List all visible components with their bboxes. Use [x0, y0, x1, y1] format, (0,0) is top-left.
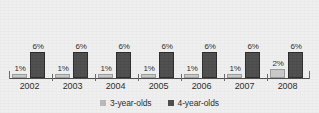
legend-swatch-icon — [168, 100, 174, 106]
bar-4-year-olds-2005[interactable] — [159, 52, 174, 78]
bar-group: 1%6% — [95, 44, 136, 78]
bar-4-year-olds-2006[interactable] — [202, 52, 217, 78]
bar-4-year-olds-2008[interactable] — [288, 52, 303, 78]
bar-value-label: 6% — [241, 42, 265, 51]
x-axis-tick — [138, 74, 139, 81]
bar-chart-figure: 1%6%1%6%1%6%1%6%1%6%1%6%2%6% 20022003200… — [0, 0, 319, 113]
bar-value-label: 6% — [112, 42, 136, 51]
x-axis-tick — [267, 74, 268, 81]
bar-4-year-olds-2002[interactable] — [30, 52, 45, 78]
bar-value-label: 1% — [51, 64, 75, 73]
x-axis-tick — [181, 74, 182, 81]
x-axis-line — [9, 78, 310, 79]
legend-swatch-icon — [100, 100, 106, 106]
bar-group: 1%6% — [52, 44, 93, 78]
bar-4-year-olds-2007[interactable] — [245, 52, 260, 78]
bar-value-label: 6% — [198, 42, 222, 51]
x-axis-tick-labels: 2002200320042005200620072008 — [9, 80, 310, 92]
bar-value-label: 1% — [223, 64, 247, 73]
x-axis-tick — [224, 74, 225, 81]
bar-value-label: 2% — [266, 59, 290, 68]
bar-group: 1%6% — [224, 44, 265, 78]
bar-group: 2%6% — [267, 44, 308, 78]
bar-group: 1%6% — [9, 44, 50, 78]
x-axis-right-cap — [309, 71, 310, 79]
bar-value-label: 6% — [69, 42, 93, 51]
bar-value-label: 6% — [155, 42, 179, 51]
legend-label: 3-year-olds — [110, 98, 151, 108]
bar-group: 1%6% — [138, 44, 179, 78]
plot-area: 1%6%1%6%1%6%1%6%1%6%1%6%2%6% — [9, 44, 310, 78]
legend-label: 4-year-olds — [178, 98, 219, 108]
bar-value-label: 1% — [180, 64, 204, 73]
bar-value-label: 6% — [26, 42, 50, 51]
bar-3-year-olds-2008[interactable] — [270, 69, 285, 78]
bar-value-label: 1% — [137, 64, 161, 73]
bar-value-label: 1% — [94, 64, 118, 73]
x-axis-label-2004: 2004 — [95, 80, 136, 92]
x-axis-label-2006: 2006 — [181, 80, 222, 92]
x-axis-label-2002: 2002 — [9, 80, 50, 92]
legend-item-3-year-olds[interactable]: 3-year-olds — [100, 98, 151, 108]
chart-legend: 3-year-olds4-year-olds — [0, 98, 319, 108]
bar-value-label: 1% — [8, 64, 32, 73]
legend-item-4-year-olds[interactable]: 4-year-olds — [168, 98, 219, 108]
bar-value-label: 6% — [284, 42, 308, 51]
x-axis-tick — [52, 74, 53, 81]
x-axis-label-2008: 2008 — [267, 80, 308, 92]
bar-4-year-olds-2003[interactable] — [73, 52, 88, 78]
bar-4-year-olds-2004[interactable] — [116, 52, 131, 78]
x-axis-label-2003: 2003 — [52, 80, 93, 92]
x-axis-label-2005: 2005 — [138, 80, 179, 92]
x-axis-left-cap — [9, 71, 10, 79]
bar-group: 1%6% — [181, 44, 222, 78]
x-axis-label-2007: 2007 — [224, 80, 265, 92]
x-axis-tick — [95, 74, 96, 81]
